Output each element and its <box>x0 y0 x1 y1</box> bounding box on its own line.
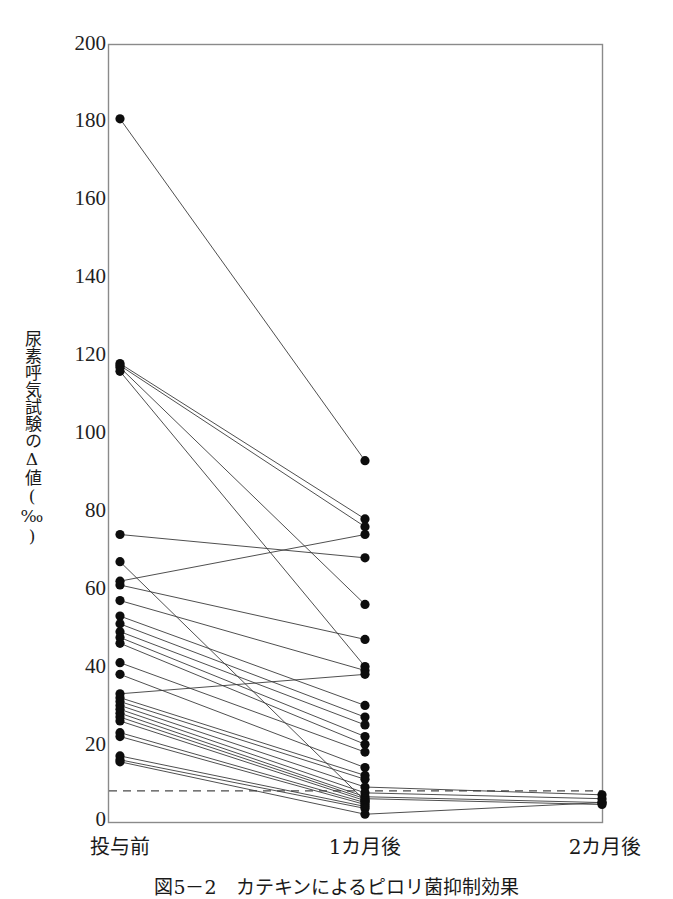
plot-frame <box>109 45 603 823</box>
y-tick-100: 100 <box>48 422 106 443</box>
y-tick-0: 0 <box>48 809 106 830</box>
connector-lines <box>120 119 602 814</box>
y-tick-20: 20 <box>48 734 106 755</box>
data-point-markers <box>115 114 606 819</box>
y-tick-60: 60 <box>48 578 106 599</box>
y-tick-200: 200 <box>48 33 106 54</box>
y-tick-140: 140 <box>48 266 106 287</box>
y-tick-80: 80 <box>48 500 106 521</box>
x-tick-before: 投与前 <box>55 836 185 858</box>
figure-root: 尿素呼気試験のΔ値(‰) 200 180 160 140 120 100 80 … <box>0 0 673 899</box>
y-tick-160: 160 <box>48 188 106 209</box>
slope-chart-canvas <box>0 0 673 899</box>
y-axis-title: 尿素呼気試験のΔ値(‰) <box>8 330 42 546</box>
y-tick-120: 120 <box>48 344 106 365</box>
x-tick-1month: 1カ月後 <box>300 836 430 858</box>
y-tick-180: 180 <box>48 110 106 131</box>
figure-caption: 図5－2 カテキンによるピロリ菌抑制効果 <box>0 876 673 898</box>
y-tick-40: 40 <box>48 656 106 677</box>
x-tick-2month: 2カ月後 <box>540 836 670 858</box>
